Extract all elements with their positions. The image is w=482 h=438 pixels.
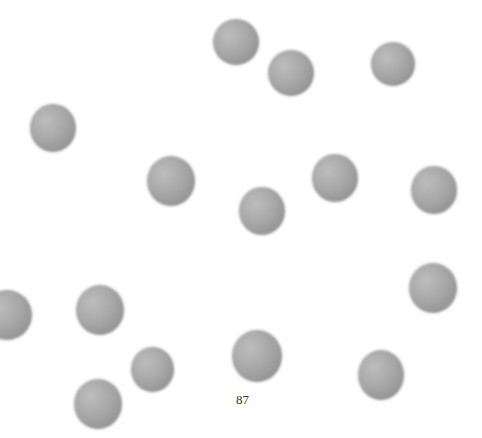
ball[interactable] bbox=[30, 104, 76, 152]
ball[interactable] bbox=[268, 50, 314, 96]
ball[interactable] bbox=[76, 285, 124, 335]
game-canvas[interactable]: 87 bbox=[0, 0, 482, 438]
ball[interactable] bbox=[232, 330, 282, 382]
ball[interactable] bbox=[213, 19, 259, 65]
ball[interactable] bbox=[358, 350, 404, 400]
score-counter: 87 bbox=[236, 392, 249, 408]
ball[interactable] bbox=[371, 42, 415, 86]
ball[interactable] bbox=[409, 263, 457, 313]
ball[interactable] bbox=[239, 187, 285, 235]
ball[interactable] bbox=[312, 154, 358, 202]
ball[interactable] bbox=[0, 290, 32, 340]
ball[interactable] bbox=[411, 166, 457, 214]
ball[interactable] bbox=[147, 156, 195, 206]
ball[interactable] bbox=[131, 347, 174, 392]
ball[interactable] bbox=[74, 379, 122, 429]
